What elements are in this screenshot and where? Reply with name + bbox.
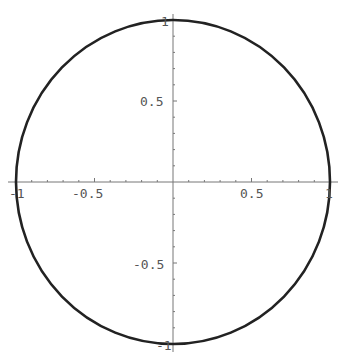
y-tick-label-0.5: 0.5 xyxy=(140,94,163,109)
y-tick-label-neg1: -1 xyxy=(156,338,172,353)
y-tick-label-neg0.5: -0.5 xyxy=(133,257,164,272)
y-tick-label-1: 1 xyxy=(161,14,169,29)
x-tick-label-1: 1 xyxy=(325,186,333,201)
circle-plot: -1 -0.5 0.5 1 1 0.5 -0.5 -1 xyxy=(0,0,344,357)
x-tick-label-neg1: -1 xyxy=(9,186,25,201)
x-tick-label-neg0.5: -0.5 xyxy=(72,186,103,201)
x-tick-label-0.5: 0.5 xyxy=(240,186,263,201)
